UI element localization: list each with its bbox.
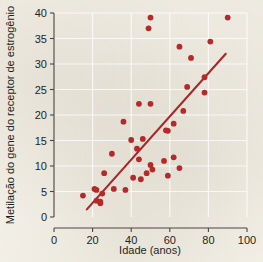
data-point: [136, 101, 142, 107]
chart-figure: 0510152025303540020406080100 Idade (anos…: [0, 0, 263, 262]
tick-labels: 0510152025303540020406080100: [35, 7, 256, 246]
y-tick-label: 40: [35, 7, 47, 19]
data-point: [207, 39, 213, 45]
data-point: [109, 151, 115, 157]
data-point: [134, 146, 140, 152]
y-tick-label: 0: [41, 211, 47, 223]
y-tick-label: 25: [35, 84, 47, 96]
y-tick-label: 20: [35, 109, 47, 121]
scatter-plot: 0510152025303540020406080100 Idade (anos…: [0, 0, 263, 262]
data-point: [188, 55, 194, 61]
data-point: [144, 170, 150, 176]
data-point: [140, 136, 146, 142]
x-tick-label: 0: [51, 234, 57, 246]
data-point: [97, 200, 103, 206]
data-point: [184, 84, 190, 90]
data-point: [148, 101, 154, 107]
data-point: [130, 175, 136, 181]
x-tick-label: 80: [202, 234, 214, 246]
x-axis-label: Idade (anos): [119, 244, 181, 256]
y-tick-label: 10: [35, 160, 47, 172]
data-point: [146, 25, 152, 31]
y-axis-label: Metilação do gene do receptor de estrogê…: [4, 6, 16, 224]
data-point: [148, 15, 154, 21]
y-tick-label: 35: [35, 33, 47, 45]
y-tick-label: 30: [35, 58, 47, 70]
data-point: [101, 170, 107, 176]
data-point: [202, 90, 208, 96]
data-point: [121, 119, 127, 125]
data-point: [136, 156, 142, 162]
axis-ticks: [50, 13, 247, 232]
x-tick-label: 20: [86, 234, 98, 246]
data-point: [150, 167, 156, 173]
data-point: [165, 128, 171, 134]
data-point: [161, 158, 167, 164]
x-tick-label: 100: [238, 234, 256, 246]
data-point: [171, 121, 177, 127]
data-point: [111, 186, 117, 192]
data-point: [123, 187, 129, 193]
data-point: [225, 15, 231, 21]
data-point: [171, 154, 177, 160]
data-point: [99, 191, 105, 197]
y-tick-label: 15: [35, 135, 47, 147]
data-point: [180, 108, 186, 114]
data-point: [138, 176, 144, 182]
data-point: [165, 173, 171, 179]
data-point: [128, 137, 134, 143]
data-point: [94, 187, 100, 193]
data-point: [80, 193, 86, 199]
y-tick-label: 5: [41, 186, 47, 198]
data-point: [177, 44, 183, 50]
data-point: [202, 74, 208, 80]
data-point: [177, 165, 183, 171]
gridlines: [54, 13, 247, 217]
